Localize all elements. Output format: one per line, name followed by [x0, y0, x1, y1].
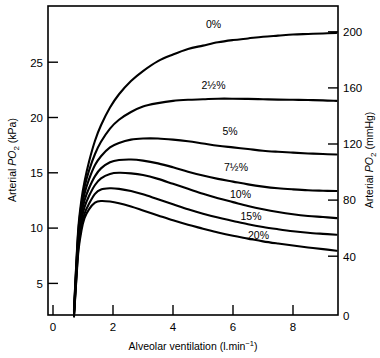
- curve-label-0: 0%: [206, 18, 221, 30]
- svg-text:Arterial PO2 (kPa): Arterial PO2 (kPa): [6, 118, 21, 202]
- y-axis-right-title: Arterial PO2 (mmHg): [363, 112, 378, 209]
- curve-label-25: 2½%: [202, 79, 226, 91]
- ytick-right-label: 40: [343, 251, 356, 263]
- ytick-label: 10: [30, 222, 43, 234]
- y-axis-right-ticks: [328, 32, 338, 256]
- ytick-label: 5: [37, 278, 43, 290]
- y-right-title-pre: Arterial: [363, 172, 375, 208]
- y-left-title-subo: O: [6, 151, 18, 159]
- y-left-title-post: (kPa): [6, 118, 18, 146]
- x-axis-title: Alveolar ventilation (l.min−1): [129, 339, 258, 352]
- curve-0: [74, 33, 337, 310]
- curve-group: [74, 33, 337, 317]
- chart-canvas: 25 20 15 10 5 200 160 120 80 40 0: [0, 0, 380, 358]
- svg-text:Alveolar ventilation (l.min−1): Alveolar ventilation (l.min−1): [129, 339, 258, 352]
- ytick-right-label: 0: [343, 310, 349, 322]
- x-axis-title-sup: −1: [245, 339, 254, 348]
- ytick-right-label: 160: [343, 82, 362, 94]
- y-left-title-sym: P: [6, 159, 18, 166]
- x-axis-ticks: [53, 305, 293, 315]
- curve-75: [74, 160, 337, 314]
- curve-10: [74, 173, 337, 315]
- y-right-title-subo: O: [363, 157, 375, 165]
- xtick-label: 8: [290, 321, 296, 333]
- curve-5: [74, 138, 337, 312]
- ytick-label: 20: [30, 112, 43, 124]
- y-axis-left-title: Arterial PO2 (kPa): [6, 118, 21, 202]
- curve-15: [74, 188, 337, 315]
- ytick-right-label: 200: [343, 26, 362, 38]
- ytick-right-label: 120: [343, 138, 362, 150]
- curve-25: [74, 99, 337, 311]
- x-axis-title-main: Alveolar ventilation (l.min: [129, 340, 246, 352]
- xtick-label: 2: [110, 321, 116, 333]
- y-left-title-pre: Arterial: [6, 166, 18, 202]
- curve-label-15: 15%: [240, 210, 261, 222]
- curve-label-5: 5%: [222, 125, 237, 137]
- y-right-title-post: (mmHg): [363, 112, 375, 153]
- y-right-title-sym: P: [363, 165, 375, 172]
- curve-label-75: 7½%: [224, 161, 248, 173]
- xtick-label: 6: [230, 321, 236, 333]
- xtick-label: 4: [170, 321, 177, 333]
- ytick-right-label: 80: [343, 194, 356, 206]
- y-axis-left-labels: 25 20 15 10 5: [30, 57, 43, 290]
- x-axis-labels: 0 2 4 6 8: [50, 321, 296, 333]
- curve-label-20: 20%: [248, 229, 269, 241]
- figure-container: 25 20 15 10 5 200 160 120 80 40 0: [0, 0, 380, 358]
- x-axis-title-tail: ): [254, 340, 258, 352]
- curve-label-10: 10%: [230, 188, 251, 200]
- curve-20: [74, 201, 337, 317]
- ytick-label: 15: [30, 167, 43, 179]
- y-axis-left-ticks: [48, 62, 58, 283]
- ytick-label: 25: [30, 57, 43, 69]
- y-axis-right-labels: 200 160 120 80 40 0: [343, 26, 362, 321]
- svg-text:Arterial PO2 (mmHg): Arterial PO2 (mmHg): [363, 112, 378, 209]
- xtick-label: 0: [50, 321, 56, 333]
